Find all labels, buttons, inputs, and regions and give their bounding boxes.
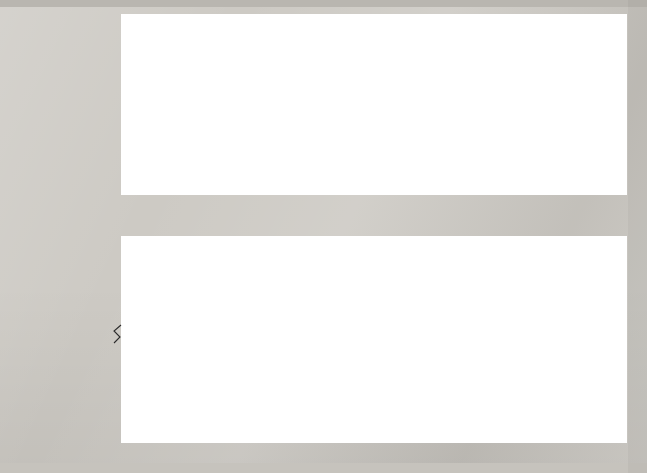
page-right-edge-shadow (628, 0, 647, 473)
figure-page (0, 0, 647, 473)
page-bottom-band (0, 463, 647, 473)
page-top-band (0, 0, 647, 7)
bottom-chart-series-group (121, 236, 627, 443)
top-chart-series-tse-price-index (121, 14, 627, 195)
